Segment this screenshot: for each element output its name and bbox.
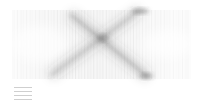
legend-swatch	[14, 99, 32, 100]
legend-swatch	[14, 87, 32, 88]
legend	[14, 86, 60, 104]
legend-swatch	[14, 91, 32, 92]
legend-swatch	[14, 95, 32, 96]
